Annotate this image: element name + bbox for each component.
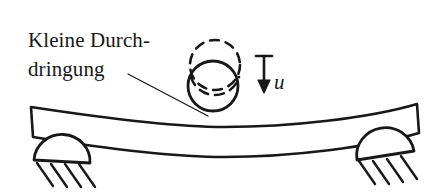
right-support-group [357, 128, 417, 184]
annotation-line-2: dringung [28, 55, 150, 84]
mechanics-diagram: Kleine Durch- dringung u [0, 0, 438, 195]
arrow-head [258, 80, 270, 93]
ball-displaced-position-group [188, 61, 239, 111]
annotation-line-1: Kleine Durch- [28, 28, 150, 52]
right-support-hatching [359, 156, 417, 184]
penetration-annotation-label: Kleine Durch- dringung [28, 26, 150, 84]
displacement-symbol-label: u [274, 70, 285, 95]
left-support-hatching [37, 163, 95, 187]
displacement-arrow-group [256, 56, 272, 93]
